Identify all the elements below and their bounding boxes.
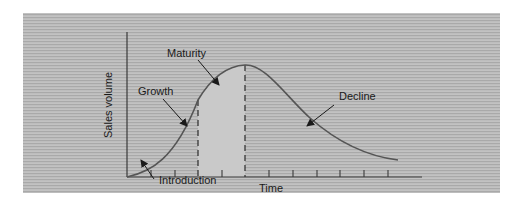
growth-label: Growth [138, 85, 173, 97]
decline-label: Decline [339, 90, 376, 102]
x-axis-label: Time [259, 182, 283, 194]
maturity-shaded-region [198, 65, 245, 177]
maturity-arrow [198, 60, 219, 85]
product-life-cycle-chart: Sales volume Time Maturity Growth Declin… [0, 0, 527, 206]
decline-arrow [307, 105, 334, 126]
y-axis-label: Sales volume [102, 72, 114, 138]
growth-arrow [163, 99, 187, 126]
introduction-label: Introduction [159, 174, 216, 186]
introduction-arrow [141, 160, 154, 179]
sales-curve [127, 65, 398, 177]
maturity-label: Maturity [167, 47, 207, 59]
